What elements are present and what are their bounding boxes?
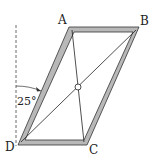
pivot-circle: [75, 84, 81, 90]
vertex-label-c: C: [89, 144, 98, 156]
diagram-figure: [0, 0, 154, 161]
vertex-label-b: B: [140, 15, 149, 27]
angle-arrow-icon: [36, 87, 41, 92]
angle-label: 25°: [17, 96, 37, 107]
vertex-label-a: A: [58, 14, 67, 26]
parallelogram-diagram: A B C D 25°: [0, 0, 154, 161]
vertex-label-d: D: [5, 141, 15, 153]
